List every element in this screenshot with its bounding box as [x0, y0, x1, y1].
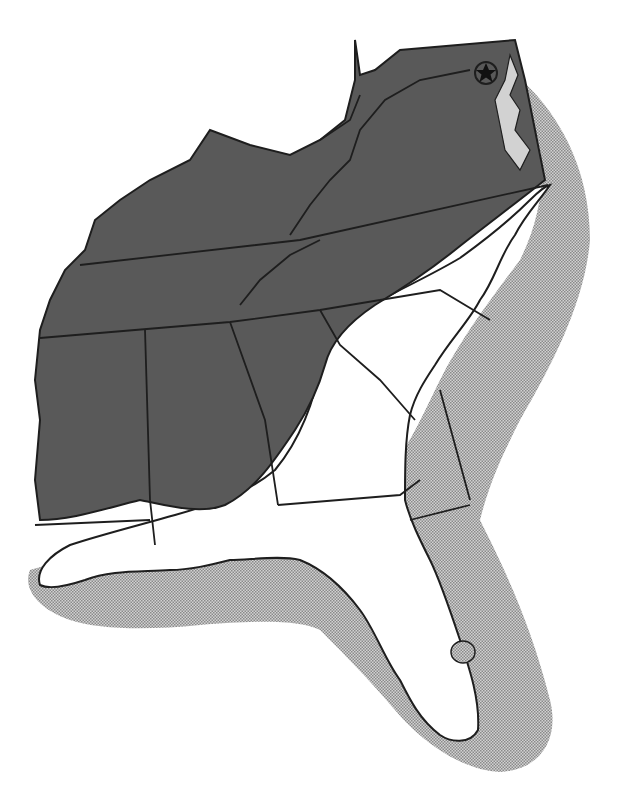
capital-star-icon — [475, 62, 497, 84]
range-map — [0, 0, 625, 796]
lake-okeechobee — [451, 641, 475, 663]
